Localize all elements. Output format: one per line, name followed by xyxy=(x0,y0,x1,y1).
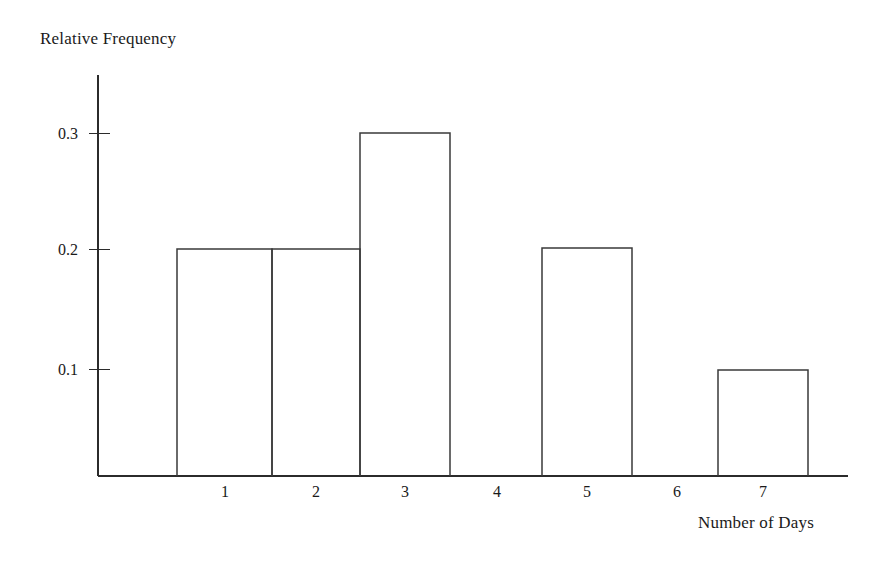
x-tick-label-4: 4 xyxy=(482,484,512,500)
y-tick-label-0-2: 0.2 xyxy=(34,242,78,258)
bar-category-3 xyxy=(360,133,450,476)
y-tick-label-0-3: 0.3 xyxy=(34,126,78,142)
y-tick-label-0-1: 0.1 xyxy=(34,362,78,378)
x-axis-title: Number of Days xyxy=(698,514,814,531)
x-tick-label-1: 1 xyxy=(210,484,240,500)
relative-frequency-histogram-figure: Relative Frequency 0.3 0.2 0.1 1 2 3 4 5… xyxy=(0,0,892,571)
bar-category-7 xyxy=(718,370,808,476)
x-tick-label-5: 5 xyxy=(572,484,602,500)
x-tick-label-7: 7 xyxy=(748,484,778,500)
bar-category-1 xyxy=(177,249,272,476)
x-tick-label-6: 6 xyxy=(662,484,692,500)
bar-category-2 xyxy=(272,249,360,476)
x-tick-label-3: 3 xyxy=(390,484,420,500)
bar-category-5 xyxy=(542,248,632,476)
x-tick-label-2: 2 xyxy=(301,484,331,500)
